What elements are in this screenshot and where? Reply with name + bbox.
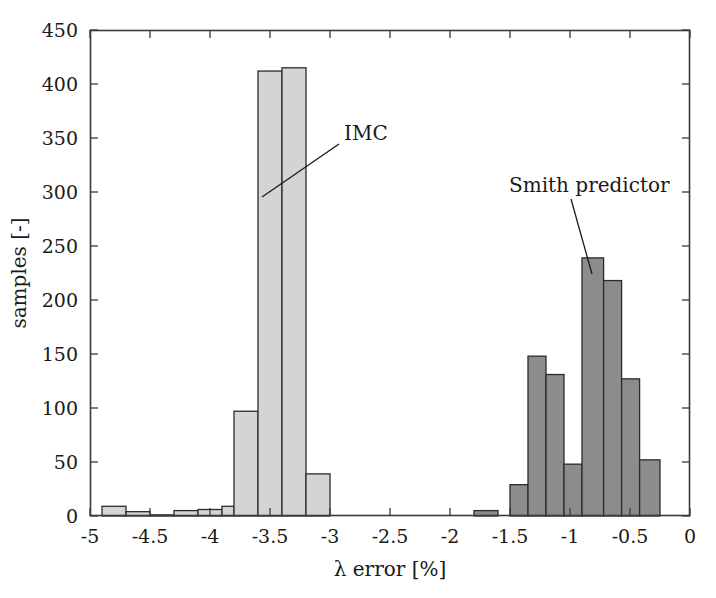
series-smith-predictor: [474, 258, 660, 516]
x-tick-label: -5: [81, 525, 100, 547]
x-tick-label: -1.5: [492, 525, 529, 547]
y-tick-label: 400: [42, 73, 78, 95]
x-tick-label: 0: [684, 525, 696, 547]
histogram-bar: [604, 281, 622, 516]
histogram-bar: [622, 379, 640, 516]
y-tick-label: 200: [42, 289, 78, 311]
x-tick-label: -0.5: [612, 525, 649, 547]
x-tick-label: -4.5: [132, 525, 169, 547]
histogram-bar: [306, 474, 330, 516]
histogram-bar: [510, 485, 528, 516]
histogram-bar: [258, 71, 282, 516]
histogram-bar: [528, 356, 546, 516]
y-tick-label: 250: [42, 235, 78, 257]
lambda-error-histogram: 050100150200250300350400450-5-4.5-4-3.5-…: [0, 0, 716, 598]
x-axis-title: λ error [%]: [334, 557, 447, 581]
y-tick-label: 450: [42, 19, 78, 41]
histogram-bar: [582, 258, 604, 516]
annotation-label: Smith predictor: [509, 173, 670, 197]
histogram-bar: [640, 460, 660, 516]
histogram-bar: [546, 375, 564, 516]
y-tick-label: 0: [66, 505, 78, 527]
x-tick-label: -3: [321, 525, 340, 547]
y-tick-label: 50: [54, 451, 78, 473]
chart-annotations: IMCSmith predictor: [262, 121, 670, 274]
y-tick-label: 150: [42, 343, 78, 365]
y-tick-label: 350: [42, 127, 78, 149]
series-imc: [102, 68, 330, 516]
histogram-figure: 050100150200250300350400450-5-4.5-4-3.5-…: [0, 0, 716, 598]
histogram-bar: [234, 411, 258, 516]
annotation-label: IMC: [344, 121, 388, 145]
x-tick-label: -2.5: [372, 525, 409, 547]
histogram-bar: [102, 506, 126, 516]
y-axis-title: samples [-]: [7, 217, 31, 328]
histogram-bar: [222, 506, 234, 516]
histogram-bar: [282, 68, 306, 516]
y-tick-label: 100: [42, 397, 78, 419]
x-tick-label: -2: [441, 525, 460, 547]
histogram-bar: [564, 464, 582, 516]
x-tick-label: -4: [201, 525, 220, 547]
x-tick-label: -1: [561, 525, 580, 547]
x-tick-label: -3.5: [252, 525, 289, 547]
y-tick-label: 300: [42, 181, 78, 203]
